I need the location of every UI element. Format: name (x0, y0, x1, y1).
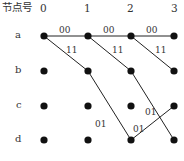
trellis-diagram: 节点号 0 1 2 3 a b c d 00 00 00 11 11 11 01… (0, 0, 184, 161)
edge-a1-b2 (88, 36, 131, 71)
row-label-c: c (16, 100, 22, 110)
edge-label-a1-b2: 11 (112, 46, 123, 55)
node-a1 (84, 32, 91, 39)
node-c1 (84, 102, 91, 109)
node-a0 (40, 32, 47, 39)
edge-label-a0-a1: 00 (59, 26, 70, 35)
edge-label-a1-a2: 00 (103, 26, 114, 35)
node-d3 (170, 136, 177, 143)
row-label-d: d (15, 134, 21, 144)
column-header-2: 2 (127, 3, 134, 14)
column-header-1: 1 (84, 3, 91, 14)
node-c0 (40, 102, 47, 109)
node-a3 (170, 32, 177, 39)
edge-label-a0-b1: 11 (66, 46, 77, 55)
node-d1 (84, 136, 91, 143)
node-b1 (84, 67, 91, 74)
node-c3 (170, 102, 177, 109)
edge-label-a2-b3: 11 (155, 46, 166, 55)
column-header-0: 0 (40, 3, 47, 14)
column-header-3: 3 (171, 3, 178, 14)
node-b0 (40, 67, 47, 74)
node-b2 (127, 67, 134, 74)
node-d0 (40, 136, 47, 143)
node-number-label: 节点号 (2, 2, 32, 13)
row-label-a: a (15, 30, 21, 40)
node-c2 (127, 102, 134, 109)
edge-label-b1-d2: 01 (95, 120, 106, 129)
row-label-b: b (15, 65, 21, 75)
edge-b1-d2 (88, 71, 131, 140)
node-b3 (170, 67, 177, 74)
edge-label-d2-c3: 01 (133, 125, 144, 134)
node-a2 (127, 32, 134, 39)
edge-label-b2-d3: 01 (145, 108, 156, 117)
edge-a2-b3 (131, 36, 174, 71)
edge-label-a2-a3: 00 (146, 26, 157, 35)
node-d2 (127, 136, 134, 143)
